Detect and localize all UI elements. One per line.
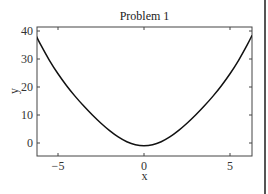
x-tick-label: −5: [52, 159, 65, 173]
chart-title: Problem 1: [120, 9, 170, 23]
page-border: [264, 0, 266, 194]
x-tick-label: 5: [227, 159, 233, 173]
plot-area: [37, 27, 252, 156]
y-tick-label: 20: [21, 80, 33, 94]
chart: Problem 1 −505 010203040 x y: [0, 0, 268, 194]
y-tick-label: 40: [21, 24, 33, 38]
y-axis-ticks: 010203040: [21, 24, 252, 150]
x-axis-label: x: [142, 169, 148, 183]
y-tick-label: 0: [27, 136, 33, 150]
y-axis-label: y: [7, 88, 21, 94]
y-tick-label: 10: [21, 108, 33, 122]
data-line: [36, 35, 252, 146]
y-tick-label: 30: [21, 52, 33, 66]
